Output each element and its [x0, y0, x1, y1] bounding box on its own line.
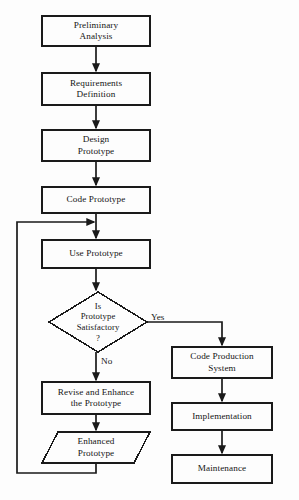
- node-code-production-system: [172, 347, 272, 378]
- node-code-prototype: [42, 187, 150, 213]
- node-use-prototype: [42, 240, 150, 268]
- node-design-prototype: [42, 130, 150, 161]
- edge-label-yes: Yes: [151, 312, 164, 322]
- node-preliminary-analysis: [42, 16, 150, 46]
- flowchart-canvas: Preliminary Analysis Requirements Defini…: [0, 0, 299, 500]
- node-revise-and-enhance: [42, 382, 150, 414]
- node-implementation: [172, 403, 272, 430]
- flowchart-graphics: [0, 0, 299, 500]
- node-requirements-definition: [42, 73, 150, 105]
- edge-decision-yes-to-production: [147, 322, 222, 345]
- node-maintenance: [172, 455, 272, 483]
- node-is-prototype-satisfactory: [49, 292, 147, 352]
- node-enhanced-prototype: [42, 432, 150, 463]
- edge-label-no: No: [101, 356, 112, 366]
